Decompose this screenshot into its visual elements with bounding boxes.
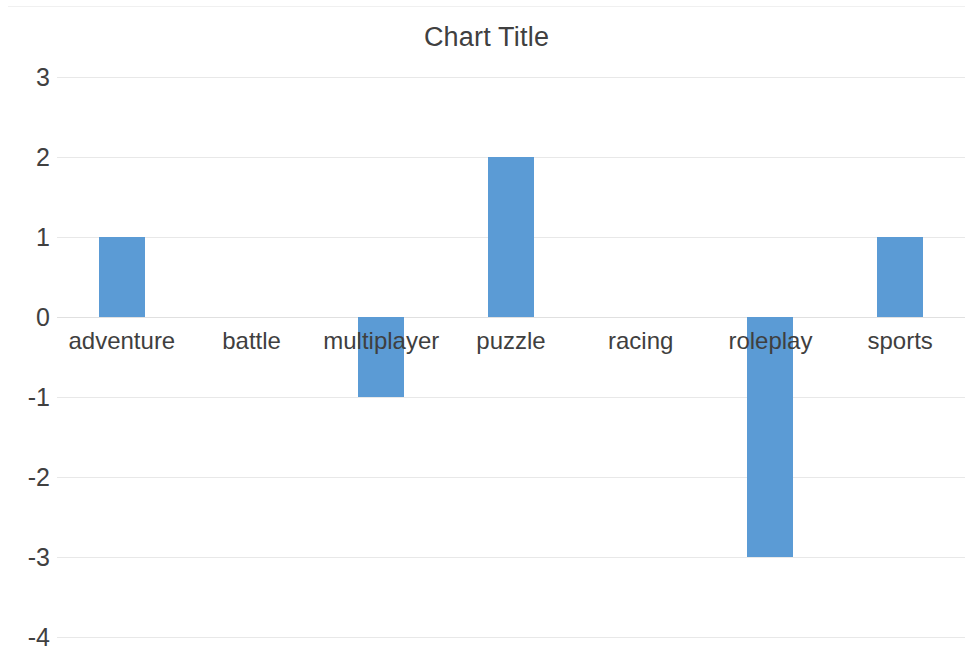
gridline: [57, 77, 965, 78]
y-axis-tick-label: -3: [4, 545, 50, 570]
gridline: [57, 397, 965, 398]
chart-title: Chart Title: [0, 22, 973, 53]
y-axis-tick-label: 3: [4, 65, 50, 90]
bar: [358, 317, 404, 397]
plot-area: [57, 77, 965, 637]
y-axis-tick-label: 0: [4, 305, 50, 330]
bar: [747, 317, 793, 557]
y-axis-tick-label: 1: [4, 225, 50, 250]
bar: [877, 237, 923, 317]
y-axis-tick-label: 2: [4, 145, 50, 170]
gridline: [57, 317, 965, 318]
chart-frame-top-border: [8, 6, 965, 7]
bar-chart: Chart Title 3210-1-2-3-4 adventurebattle…: [0, 0, 973, 660]
y-axis: 3210-1-2-3-4: [0, 77, 50, 637]
bar: [488, 157, 534, 317]
gridline: [57, 477, 965, 478]
y-axis-tick-label: -2: [4, 465, 50, 490]
bar: [99, 237, 145, 317]
y-axis-tick-label: -4: [4, 625, 50, 650]
gridline: [57, 637, 965, 638]
gridline: [57, 557, 965, 558]
y-axis-tick-label: -1: [4, 385, 50, 410]
